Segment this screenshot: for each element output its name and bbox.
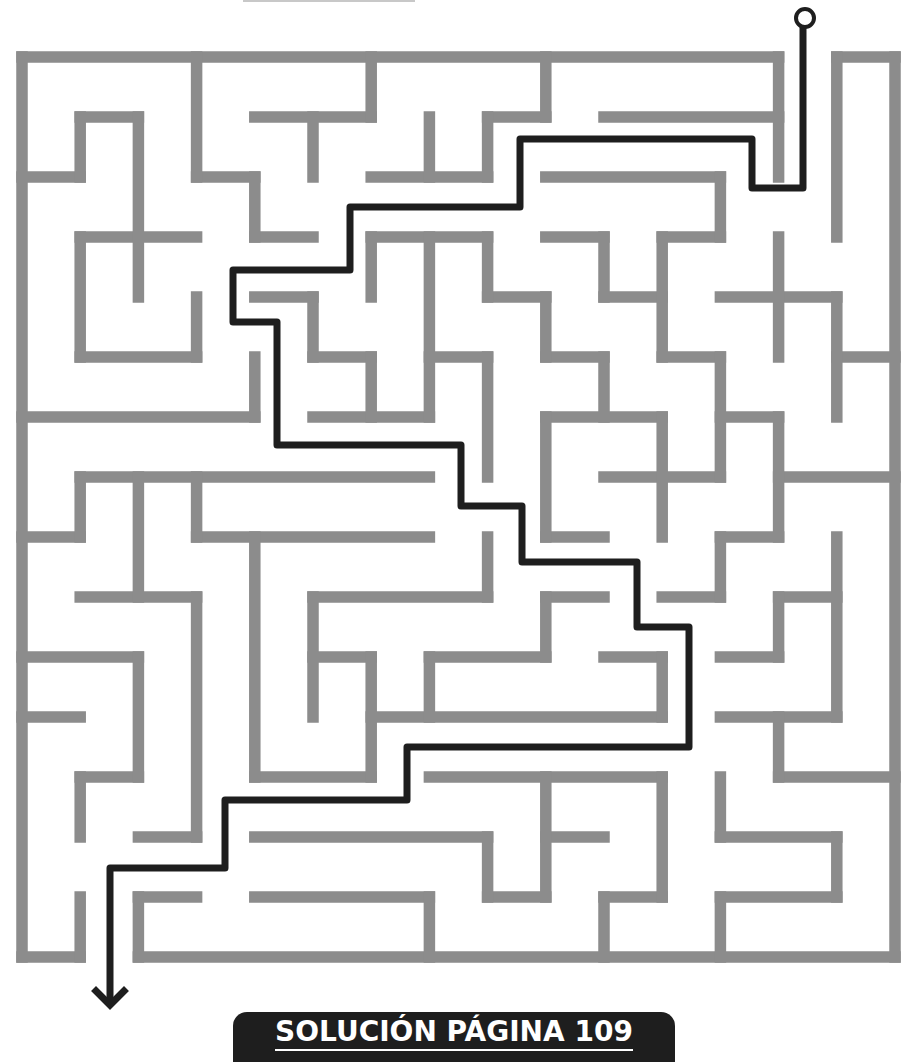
maze-wall [540,171,726,183]
maze-wall [307,591,493,603]
maze-wall [249,831,493,843]
maze-wall [831,531,843,723]
maze-wall [133,951,901,963]
solution-page-label: SOLUCIÓN PÁGINA 109 [275,1015,633,1051]
maze-wall [715,531,727,603]
maze-wall [249,531,260,783]
maze-wall [540,591,552,663]
maze-wall [307,111,319,183]
maze-wall [598,111,784,123]
maze-wall [482,111,494,183]
maze-wall [249,171,260,243]
maze-wall [191,591,203,843]
maze-wall [16,51,784,63]
maze-wall [540,411,552,543]
maze-wall [773,591,785,663]
maze-wall [365,711,668,723]
maze-wall [249,891,435,903]
maze-wall [540,291,552,363]
maze-wall [424,231,436,423]
maze-wall [191,471,203,543]
maze-wall [74,471,86,543]
maze-wall [773,411,785,543]
maze-wall [656,231,668,363]
maze-wall [831,831,843,903]
maze-wall [74,231,86,363]
maze-wall [773,471,901,483]
maze-wall [773,51,785,183]
maze-wall [715,891,843,903]
maze-wall [424,111,436,183]
maze-wall [365,231,377,303]
maze-wall [831,51,843,243]
maze-wall [656,771,668,903]
maze-wall [482,531,494,603]
maze-wall [598,891,610,963]
maze-wall [773,771,901,783]
maze-wall [365,351,377,423]
maze-wall [424,651,436,723]
maze-wall [482,831,494,903]
maze-wall [16,651,144,663]
maze-wall [191,531,435,543]
maze-wall [74,351,202,363]
maze-wall [16,411,260,423]
maze-wall [365,651,377,783]
maze-wall [540,51,552,123]
maze-wall [715,171,727,243]
maze-wall [74,471,435,483]
maze-wall [540,771,552,903]
maze-wall [889,51,901,963]
maze-wall [773,231,785,363]
maze-wall [307,591,319,723]
maze-wall [715,351,727,483]
maze-wall [715,891,727,963]
maze-wall [133,471,145,603]
maze-wall [773,711,785,783]
maze-wall [598,231,610,303]
maze-wall [598,351,610,423]
maze-wall [656,411,668,543]
maze-wall [133,891,145,963]
maze-wall [74,771,86,843]
maze-wall [307,291,319,363]
maze-wall [831,291,843,423]
maze-wall [74,111,86,183]
maze-wall [482,231,494,303]
maze-wall [715,831,843,843]
maze-wall [424,651,552,663]
solution-page-badge: SOLUCIÓN PÁGINA 109 [233,1012,675,1062]
maze-wall [249,351,260,423]
maze-wall [133,111,145,303]
maze-wall [715,771,727,843]
maze-wall [133,651,145,783]
maze-wall [74,891,86,963]
maze-wall [249,771,377,783]
maze-wall [191,291,203,363]
maze-wall [424,891,436,963]
maze-wall [482,351,494,483]
start-circle-icon [796,9,814,27]
maze-wall [16,51,28,963]
maze-wall [365,51,377,123]
maze-wall [191,51,203,183]
maze-wall [656,651,668,723]
